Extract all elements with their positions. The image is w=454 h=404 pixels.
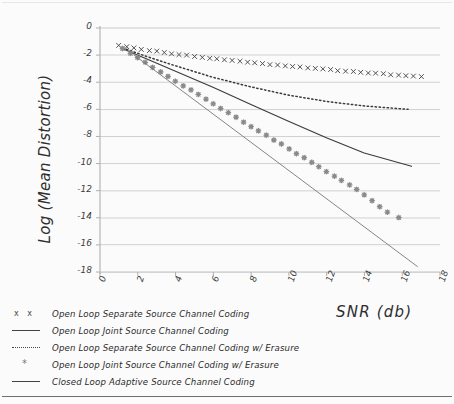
legend-item[interactable]: *Open Loop Joint Source Channel Coding w… xyxy=(8,357,368,373)
series-marker-x xyxy=(321,67,325,71)
y-tick-label: -4 xyxy=(66,75,92,85)
series-marker-star xyxy=(272,138,277,143)
series-marker-x xyxy=(139,47,143,51)
legend-item[interactable]: x xOpen Loop Separate Source Channel Cod… xyxy=(8,306,368,322)
series-marker-star xyxy=(339,178,344,183)
series-marker-x xyxy=(419,75,423,79)
legend-key-line xyxy=(12,381,40,382)
series-marker-star xyxy=(332,174,337,179)
series-marker-x xyxy=(162,50,166,54)
page-bottom-rule xyxy=(2,396,452,397)
series-marker-star xyxy=(347,183,352,188)
legend-item-label: Open Loop Separate Source Channel Coding xyxy=(52,309,249,319)
series-marker-star xyxy=(310,160,315,165)
legend-item-label: Open Loop Joint Source Channel Coding xyxy=(52,326,229,336)
series-marker-x xyxy=(222,58,226,62)
series-marker-star xyxy=(211,102,216,107)
y-tick-label: 0 xyxy=(66,21,92,31)
series-marker-x xyxy=(313,66,317,70)
series-marker-x xyxy=(260,62,264,66)
series-marker-x xyxy=(230,58,234,62)
legend-item[interactable]: Open Loop Joint Source Channel Coding xyxy=(8,323,368,339)
series-marker-star xyxy=(397,215,402,220)
series-marker-star xyxy=(196,92,201,97)
series-marker-star xyxy=(166,74,171,79)
series-marker-star xyxy=(218,106,223,111)
series-marker-star xyxy=(362,193,367,198)
series-marker-x xyxy=(397,73,401,77)
series-marker-x xyxy=(276,63,280,67)
series-marker-x xyxy=(208,56,212,60)
series-line xyxy=(134,55,418,267)
series-marker-x xyxy=(306,66,310,70)
series-marker-x xyxy=(200,55,204,59)
legend-item-label: Open Loop Separate Source Channel Coding… xyxy=(52,343,299,353)
legend-item-label: Open Loop Joint Source Channel Coding w/… xyxy=(52,360,279,370)
series-marker-star xyxy=(377,204,382,209)
series-marker-star xyxy=(189,88,194,93)
y-axis-title: Log (Mean Distortion) xyxy=(36,44,54,274)
chart-legend: x xOpen Loop Separate Source Channel Cod… xyxy=(8,306,368,391)
series-marker-x xyxy=(147,49,151,53)
series-marker-x xyxy=(283,64,287,68)
series-marker-x xyxy=(132,46,136,50)
series-marker-x xyxy=(351,69,355,73)
legend-solid-line-icon xyxy=(8,324,46,338)
legend-key-dots xyxy=(12,347,40,348)
legend-key-line xyxy=(12,330,40,331)
series-marker-x xyxy=(374,71,378,75)
series-marker-x xyxy=(291,64,295,68)
legend-star-marker-icon: * xyxy=(8,358,46,372)
series-marker-star xyxy=(256,129,261,134)
series-marker-star xyxy=(241,120,246,125)
series-4 xyxy=(134,55,418,267)
y-tick-label: -18 xyxy=(66,265,92,275)
series-marker-x xyxy=(381,72,385,76)
series-marker-star xyxy=(204,97,209,102)
legend-dotted-line-icon xyxy=(8,341,46,355)
series-marker-x xyxy=(344,69,348,73)
series-3 xyxy=(120,46,401,220)
series-marker-star xyxy=(226,110,231,115)
series-marker-x xyxy=(238,59,242,63)
series-line xyxy=(123,49,412,167)
series-marker-star xyxy=(249,124,254,129)
series-marker-x xyxy=(215,57,219,61)
legend-x-marker-icon: x x xyxy=(8,307,46,321)
series-marker-x xyxy=(117,43,121,47)
series-marker-star xyxy=(370,198,375,203)
series-marker-x xyxy=(366,71,370,75)
series-1 xyxy=(123,49,412,167)
series-marker-star xyxy=(287,147,292,152)
series-marker-star xyxy=(279,142,284,147)
y-tick-label: -6 xyxy=(66,102,92,112)
y-tick-label: -16 xyxy=(66,238,92,248)
legend-item[interactable]: Closed Loop Adaptive Source Channel Codi… xyxy=(8,374,368,390)
series-marker-star xyxy=(120,46,125,51)
series-marker-x xyxy=(359,70,363,74)
legend-key-glyph: * xyxy=(22,358,27,369)
series-marker-star xyxy=(264,133,269,138)
y-tick-label: -2 xyxy=(66,48,92,58)
series-marker-x xyxy=(329,67,333,71)
legend-item[interactable]: Open Loop Separate Source Channel Coding… xyxy=(8,340,368,356)
series-marker-x xyxy=(411,74,415,78)
series-marker-star xyxy=(294,151,299,156)
series-marker-star xyxy=(317,164,322,169)
series-marker-star xyxy=(354,187,359,192)
series-marker-star xyxy=(324,169,329,174)
series-marker-x xyxy=(336,69,340,73)
legend-solid-line-icon xyxy=(8,375,46,389)
y-tick-label: -8 xyxy=(66,129,92,139)
series-marker-star xyxy=(128,51,133,56)
series-marker-x xyxy=(389,73,393,77)
series-marker-x xyxy=(298,65,302,69)
y-tick-label: -12 xyxy=(66,184,92,194)
series-marker-x xyxy=(253,61,257,65)
legend-item-label: Closed Loop Adaptive Source Channel Codi… xyxy=(52,377,255,387)
series-marker-star xyxy=(173,79,178,84)
series-marker-star xyxy=(181,84,186,89)
chart-figure: Log (Mean Distortion) SNR (db) 0-2-4-6-8… xyxy=(0,0,454,404)
series-marker-x xyxy=(404,74,408,78)
series-marker-x xyxy=(268,63,272,67)
